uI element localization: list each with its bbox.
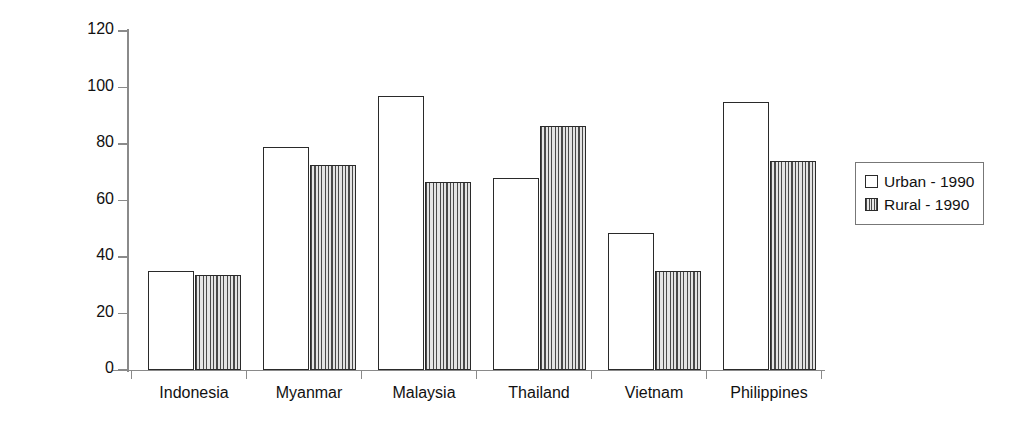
y-axis-tick (118, 369, 128, 370)
x-axis-tick (476, 370, 477, 379)
y-axis-tick (118, 30, 128, 31)
x-axis-tick (821, 370, 822, 379)
bar-urban[interactable] (378, 96, 424, 370)
y-axis-tick (118, 200, 128, 201)
y-axis-tick-label: 100 (70, 77, 114, 95)
y-axis-tick (118, 87, 128, 88)
bar-urban[interactable] (263, 147, 309, 370)
y-axis-tick (118, 313, 128, 314)
bar-rural[interactable] (540, 126, 586, 370)
legend-label-urban: Urban - 1990 (884, 173, 974, 191)
bar-group (493, 31, 586, 370)
y-axis-tick-label: 40 (70, 246, 114, 264)
legend-item-urban[interactable]: Urban - 1990 (865, 170, 974, 193)
bar-rural[interactable] (770, 161, 816, 370)
y-axis-tick-label: 60 (70, 190, 114, 208)
bar-chart: Percentage of total population 020406080… (0, 0, 1032, 432)
x-axis-tick (361, 370, 362, 379)
bar-rural[interactable] (425, 182, 471, 370)
chart-legend: Urban - 1990 Rural - 1990 (855, 162, 984, 225)
bar-urban[interactable] (723, 102, 769, 370)
y-axis-tick-label: 120 (70, 20, 114, 38)
x-axis-category-label: Philippines (683, 384, 855, 402)
plot-area (128, 31, 818, 370)
bar-group (263, 31, 356, 370)
bar-urban[interactable] (493, 178, 539, 370)
bar-urban[interactable] (148, 271, 194, 370)
x-axis-tick (246, 370, 247, 379)
bar-rural[interactable] (195, 275, 241, 370)
legend-swatch-rural-icon (865, 198, 878, 211)
bar-rural[interactable] (655, 271, 701, 370)
x-axis-tick (591, 370, 592, 379)
legend-swatch-urban-icon (865, 175, 878, 188)
legend-item-rural[interactable]: Rural - 1990 (865, 193, 974, 216)
bar-group (148, 31, 241, 370)
y-axis-tick-label: 80 (70, 133, 114, 151)
y-axis-tick-label: 0 (70, 359, 114, 377)
y-axis-tick (118, 143, 128, 144)
legend-label-rural: Rural - 1990 (884, 196, 969, 214)
bar-group (378, 31, 471, 370)
bar-group (608, 31, 701, 370)
x-axis-tick (131, 370, 132, 379)
y-axis-tick-label: 20 (70, 303, 114, 321)
x-axis-tick (706, 370, 707, 379)
bar-rural[interactable] (310, 165, 356, 370)
bar-urban[interactable] (608, 233, 654, 370)
y-axis-tick (118, 256, 128, 257)
bar-group (723, 31, 816, 370)
